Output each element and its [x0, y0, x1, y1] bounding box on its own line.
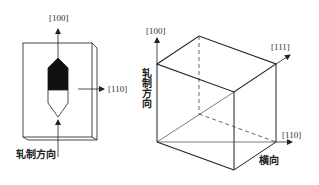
right-label-rolling-direction: 轧制方向 [140, 68, 151, 108]
right-label-transverse-direction: 横向 [259, 155, 279, 166]
left-label-rolling-direction: 轧制方向 [16, 149, 56, 160]
cube-hidden-bottom-back [199, 114, 276, 142]
left-label-110: [110] [108, 84, 127, 94]
right-label-100: [100] [146, 26, 166, 36]
plate-side-face [92, 43, 97, 140]
left-label-100: [100] [49, 13, 69, 23]
crystal-marker [48, 58, 68, 117]
cube-top-face [157, 36, 276, 92]
cube-edge-bottom-front [157, 142, 234, 170]
cube-diagonal-111 [157, 92, 234, 142]
right-arrow-111 [276, 55, 290, 64]
crystal-lower-white [48, 90, 68, 117]
right-label-110: [110] [282, 130, 301, 140]
cube [157, 36, 276, 170]
crystal-upper-black [48, 58, 68, 90]
right-label-111: [111] [271, 42, 290, 52]
